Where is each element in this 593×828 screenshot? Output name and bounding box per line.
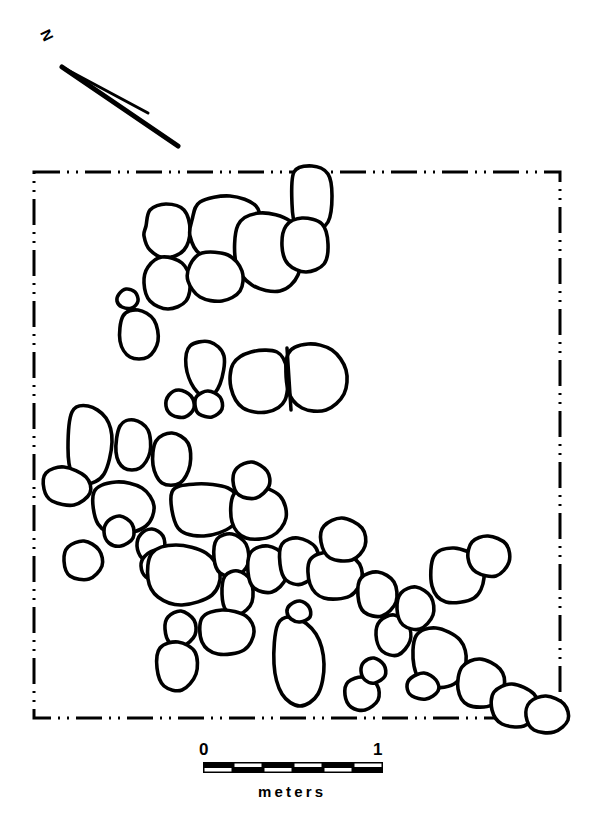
stone-outline [321,518,366,561]
scale-start-label: 0 [199,740,208,760]
stone-outline [230,350,288,412]
stone-outline [187,252,243,301]
stone-outline [233,462,270,499]
stone-outline [144,257,190,309]
scale-bar-segment [325,768,352,772]
stone-outline [64,541,103,580]
scale-bar-segment [235,764,262,768]
scale-units-label: meters [258,783,326,800]
scale-bar-segment [205,768,232,772]
stone-outline [195,391,223,417]
stone-outline [407,673,439,699]
stone-outline [361,658,386,683]
stone-outline [274,617,324,706]
stone-outline [286,344,347,411]
north-arrow-icon [62,67,178,146]
stone-outline [120,310,159,359]
stone-outline [200,610,254,654]
stone-outline [358,572,397,617]
stone-outlines-layer [43,166,568,733]
scale-bar-segment [295,764,322,768]
scale-end-label: 1 [373,740,382,760]
stone-outline [282,218,328,272]
scale-bar-segment [265,768,292,772]
site-plan-figure [0,0,593,828]
stone-outline [144,204,190,258]
stone-outline [287,601,311,622]
stone-outline [166,390,194,417]
stone-outline [397,587,434,630]
stone-outline [468,536,510,577]
stone-outline [104,516,134,546]
scale-bar-segment [355,764,382,768]
scale-bar [203,762,383,773]
stone-outline [526,696,569,733]
stone-outline [157,642,198,691]
stone-outline [116,420,151,470]
stone-outline [117,289,138,308]
stone-outline [148,545,221,605]
stone-outline [153,433,191,485]
